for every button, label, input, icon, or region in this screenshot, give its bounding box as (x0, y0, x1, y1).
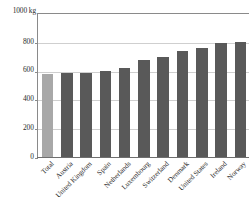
x-axis-tick-label: Norway (226, 160, 248, 182)
bar (42, 74, 54, 157)
y-axis-tick (35, 129, 38, 130)
y-axis-tick-label: 800 (0, 38, 34, 46)
y-axis-tick (35, 100, 38, 101)
bar (157, 57, 169, 157)
plot-area (37, 13, 249, 158)
bar (196, 48, 208, 157)
bar (235, 42, 247, 158)
bar (215, 43, 227, 157)
y-axis-tick-label: 600 (0, 66, 34, 74)
x-axis-line (37, 157, 249, 158)
y-axis-tick (35, 43, 38, 44)
x-axis-tick-label: Total (39, 160, 55, 176)
y-axis-tick-label: 0 (0, 153, 34, 161)
bar (80, 73, 92, 157)
y-axis-tick-label: 400 (0, 95, 34, 103)
bar (119, 68, 131, 158)
y-axis-tick-label: 200 (0, 124, 34, 132)
bar-chart: 1000 kg 0200400600800 TotalAustriaUnited… (0, 0, 249, 210)
y-axis-tick (35, 158, 38, 159)
y-axis-unit-label: 1000 kg (0, 7, 36, 15)
bar (138, 60, 150, 158)
bar (100, 71, 112, 158)
y-axis-tick (35, 72, 38, 73)
bar (177, 51, 189, 158)
bar (61, 73, 73, 157)
